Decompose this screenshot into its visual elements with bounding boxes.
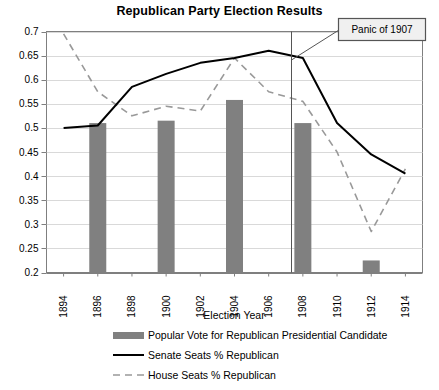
y-axis-tick-label: 0.35 [19,195,39,206]
y-axis-tick-label: 0.7 [25,26,39,37]
x-axis-tick-label: 1894 [58,295,69,318]
x-axis-tick-label: 1896 [92,295,103,318]
x-axis-tick-label: 1912 [366,295,377,318]
y-axis-tick-labels: 0.20.250.30.350.40.450.50.550.60.650.7 [19,26,39,278]
chart-legend: Popular Vote for Republican Presidential… [113,329,387,381]
x-axis-tick-label: 1910 [332,295,343,318]
legend-marker-bar [113,332,144,339]
x-axis-title: Election Year [203,309,265,321]
chart-plot: 0.20.250.30.350.40.450.50.550.60.650.7 1… [0,0,439,390]
x-axis-tick-label: 1906 [263,295,274,318]
bar [363,260,380,272]
x-axis-tick-label: 1914 [400,295,411,318]
y-axis-tick-label: 0.45 [19,147,39,158]
legend-label: Senate Seats % Republican [148,349,279,361]
y-axis-tick-label: 0.55 [19,98,39,109]
x-axis-tick-label: 1900 [161,295,172,318]
y-axis-tick-label: 0.6 [25,74,39,85]
bar [89,123,106,272]
legend-label: Popular Vote for Republican Presidential… [148,329,387,341]
y-axis-tick-label: 0.5 [25,122,39,133]
bar [226,100,243,273]
y-axis-tick-label: 0.4 [25,171,39,182]
y-axis-tick-label: 0.25 [19,243,39,254]
x-axis-tick-label: 1908 [297,295,308,318]
bar [158,121,175,273]
legend-label: House Seats % Republican [148,369,276,381]
y-axis-tick-label: 0.3 [25,219,39,230]
y-axis-tick-label: 0.65 [19,50,39,61]
x-axis-tick-label: 1898 [126,295,137,318]
bar [294,123,311,272]
annotation-label: Panic of 1907 [351,24,413,35]
chart-container: Republican Party Election Results 0.20.2… [0,0,439,390]
y-axis-tick-label: 0.2 [25,267,39,278]
